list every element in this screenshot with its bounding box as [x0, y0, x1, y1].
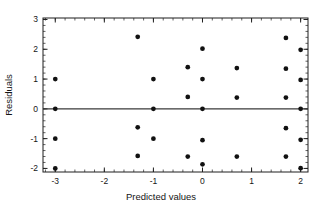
- data-point: [53, 106, 58, 111]
- y-axis-label: Residuals: [3, 74, 14, 116]
- x-tick-label: -3: [51, 176, 59, 186]
- data-point: [151, 136, 156, 141]
- data-point: [135, 125, 140, 130]
- data-point: [284, 95, 289, 100]
- data-point: [284, 36, 289, 41]
- y-tick-label: -2: [30, 163, 38, 173]
- data-point: [185, 65, 190, 70]
- data-point: [185, 154, 190, 159]
- data-point: [151, 106, 156, 111]
- y-tick-label: 2: [33, 44, 38, 54]
- y-tick-label: 1: [33, 74, 38, 84]
- figure-background: [0, 0, 323, 207]
- x-tick-label: -1: [150, 176, 158, 186]
- data-point: [200, 162, 205, 167]
- data-point: [298, 106, 303, 111]
- x-tick-label: -2: [101, 176, 109, 186]
- y-tick-label: 0: [33, 104, 38, 114]
- data-point: [234, 154, 239, 159]
- x-tick-label: 2: [298, 176, 303, 186]
- data-point: [298, 48, 303, 53]
- data-point: [284, 154, 289, 159]
- data-point: [151, 77, 156, 82]
- data-point: [53, 166, 58, 171]
- data-point: [135, 34, 140, 39]
- data-point: [200, 46, 205, 51]
- data-point: [234, 66, 239, 71]
- data-point: [200, 106, 205, 111]
- data-point: [284, 66, 289, 71]
- data-point: [298, 78, 303, 83]
- y-tick-label: 3: [33, 14, 38, 24]
- residual-plot-figure: -3-2-1012 -2-10123 Predicted values Resi…: [0, 0, 323, 207]
- y-tick-label: -1: [30, 134, 38, 144]
- data-point: [135, 154, 140, 159]
- scatter-plot-canvas: -3-2-1012 -2-10123 Predicted values Resi…: [0, 0, 323, 207]
- data-point: [200, 138, 205, 143]
- data-point: [200, 77, 205, 82]
- data-point: [185, 95, 190, 100]
- data-point: [284, 126, 289, 131]
- data-point: [53, 77, 58, 82]
- data-point: [298, 166, 303, 171]
- x-tick-label: 1: [249, 176, 254, 186]
- x-axis-label: Predicted values: [126, 191, 196, 202]
- data-point: [234, 95, 239, 100]
- data-point: [298, 137, 303, 142]
- x-tick-label: 0: [200, 176, 205, 186]
- data-point: [53, 136, 58, 141]
